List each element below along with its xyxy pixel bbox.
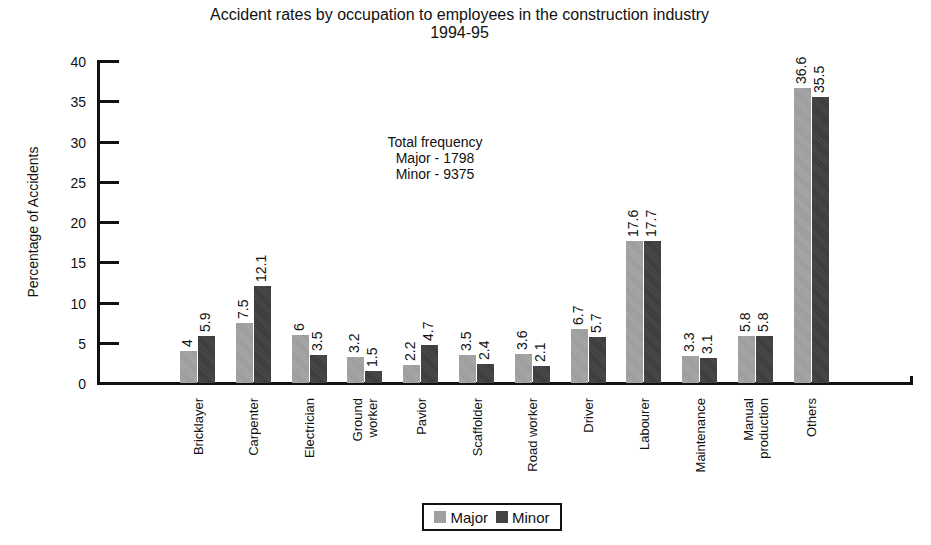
bar-major [794, 88, 811, 383]
bar-value-label: 2.2 [403, 342, 417, 361]
bar-value-label: 5.8 [756, 313, 770, 332]
bar-minor [310, 355, 327, 383]
y-tick-label: 10 [56, 297, 86, 311]
x-axis [97, 382, 913, 385]
bar-major [738, 336, 755, 383]
y-tick [97, 141, 119, 144]
bar-minor [812, 97, 829, 383]
bar-value-label: 17.7 [644, 209, 658, 236]
y-tick [97, 60, 119, 63]
bar-major [571, 329, 588, 383]
annotation-line: Major - 1798 [370, 150, 500, 166]
bar-value-label: 2.4 [477, 340, 491, 359]
bar-value-label: 2.1 [533, 343, 547, 362]
y-tick [97, 100, 119, 103]
y-tick-label: 0 [56, 377, 86, 391]
bar-value-label: 4.7 [421, 322, 435, 341]
x-tick-label: Pavior [414, 398, 429, 435]
bar-value-label: 3.5 [459, 331, 473, 350]
y-tick-label: 40 [56, 55, 86, 69]
legend-label: Major [450, 509, 488, 526]
x-axis-end-tick [910, 376, 913, 385]
bar-value-label: 3.5 [310, 331, 324, 350]
y-tick-label: 35 [56, 95, 86, 109]
x-tick-label: Others [804, 398, 819, 437]
chart-subtitle: 1994-95 [0, 24, 925, 42]
chart-title: Accident rates by occupation to employee… [0, 6, 925, 24]
bar-major [236, 323, 253, 383]
bar-major [292, 335, 309, 383]
x-tick-label: Driver [581, 398, 596, 433]
x-tick-label: Manualproduction [741, 398, 771, 459]
legend-item-minor: Minor [496, 509, 550, 526]
x-tick-label: Scaffolder [470, 398, 485, 456]
bar-value-label: 5.9 [198, 312, 212, 331]
y-tick [97, 342, 119, 345]
x-tick-label: Maintenance [693, 398, 708, 472]
y-tick-label: 20 [56, 216, 86, 230]
legend-label: Minor [512, 509, 550, 526]
annotation-line: Minor - 9375 [370, 166, 500, 182]
bar-value-label: 12.1 [254, 254, 268, 281]
y-tick-label: 5 [56, 337, 86, 351]
bar-value-label: 35.5 [812, 66, 826, 93]
bar-value-label: 5.8 [738, 313, 752, 332]
annotation-line: Total frequency [370, 134, 500, 150]
bar-value-label: 36.6 [794, 57, 808, 84]
y-tick-label: 30 [56, 136, 86, 150]
bar-minor [254, 286, 271, 383]
x-tick-label: Carpenter [246, 398, 261, 456]
x-tick-label: Electrician [302, 398, 317, 458]
bar-minor [644, 241, 661, 383]
bar-value-label: 7.5 [236, 299, 250, 318]
bar-value-label: 6.7 [571, 306, 585, 325]
bar-major [515, 354, 532, 383]
bar-minor [700, 358, 717, 383]
bar-minor [533, 366, 550, 383]
bar-major [180, 351, 197, 383]
bar-major [347, 357, 364, 383]
bar-minor [365, 371, 382, 383]
bar-value-label: 3.3 [682, 333, 696, 352]
x-tick-label: Groundworker [350, 398, 380, 441]
y-axis-label: Percentage of Accidents [25, 147, 41, 298]
y-tick [97, 181, 119, 184]
bar-value-label: 4 [180, 339, 194, 347]
y-tick-label: 25 [56, 176, 86, 190]
bar-value-label: 3.1 [700, 335, 714, 354]
bar-value-label: 3.2 [347, 334, 361, 353]
bar-value-label: 1.5 [365, 347, 379, 366]
legend-swatch-major [434, 511, 446, 523]
y-tick [97, 302, 119, 305]
bar-minor [477, 364, 494, 383]
bar-major [626, 241, 643, 383]
x-tick-label: Labourer [637, 398, 652, 450]
bar-minor [756, 336, 773, 383]
bar-value-label: 17.6 [626, 210, 640, 237]
legend: Major Minor [422, 503, 562, 531]
y-tick [97, 221, 119, 224]
x-tick-label: Bricklayer [191, 398, 206, 455]
legend-swatch-minor [496, 511, 508, 523]
bar-major [459, 355, 476, 383]
bar-minor [421, 345, 438, 383]
bar-major [403, 365, 420, 383]
x-tick-label: Road worker [525, 398, 540, 472]
bar-minor [198, 336, 215, 383]
bar-major [682, 356, 699, 383]
bar-minor [589, 337, 606, 383]
legend-item-major: Major [434, 509, 488, 526]
bar-value-label: 6 [292, 323, 306, 331]
total-frequency-annotation: Total frequency Major - 1798 Minor - 937… [370, 134, 500, 182]
bar-value-label: 5.7 [589, 314, 603, 333]
y-tick [97, 261, 119, 264]
bar-value-label: 3.6 [515, 331, 529, 350]
y-tick-label: 15 [56, 256, 86, 270]
